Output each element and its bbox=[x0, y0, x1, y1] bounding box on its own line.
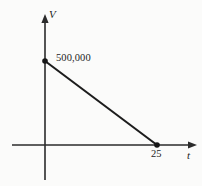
depreciation-line-graph: V t 500,000 25 bbox=[0, 0, 202, 186]
t-axis-label: t bbox=[187, 150, 190, 161]
depreciation-line bbox=[45, 61, 157, 145]
data-point-t-intercept bbox=[154, 142, 160, 148]
v-intercept-label: 500,000 bbox=[56, 53, 91, 64]
t-intercept-label: 25 bbox=[151, 149, 162, 160]
data-point-v-intercept bbox=[42, 58, 48, 64]
graph-canvas bbox=[0, 0, 202, 186]
t-axis-arrow-icon bbox=[188, 141, 197, 148]
v-axis-arrow-icon bbox=[41, 14, 48, 23]
v-axis-label: V bbox=[49, 9, 56, 20]
